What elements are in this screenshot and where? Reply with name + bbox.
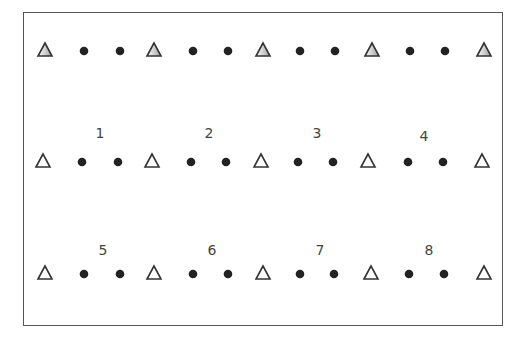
triangle-marker xyxy=(36,154,50,167)
plot-number-label: 1 xyxy=(96,125,105,141)
dot-marker xyxy=(116,47,125,56)
triangle-marker xyxy=(477,43,491,56)
triangle-marker xyxy=(256,266,270,279)
dot-marker xyxy=(189,270,198,279)
dot-marker xyxy=(187,158,196,167)
dot-marker xyxy=(222,158,231,167)
dot-marker xyxy=(441,47,450,56)
plot-number-label: 2 xyxy=(205,125,214,141)
triangle-marker xyxy=(361,154,375,167)
dot-marker xyxy=(80,47,89,56)
triangle-marker xyxy=(477,266,491,279)
dot-marker xyxy=(406,47,415,56)
triangle-marker xyxy=(147,266,161,279)
dot-marker xyxy=(116,270,125,279)
triangle-marker xyxy=(38,266,52,279)
dot-marker xyxy=(439,158,448,167)
marker-layer xyxy=(0,0,526,340)
dot-marker xyxy=(330,270,339,279)
dot-marker xyxy=(189,47,198,56)
dot-marker xyxy=(224,270,233,279)
triangle-marker xyxy=(364,266,378,279)
dot-marker xyxy=(296,47,305,56)
plot-number-label: 5 xyxy=(99,242,108,258)
dot-marker xyxy=(294,158,303,167)
plot-number-label: 4 xyxy=(420,128,429,144)
dot-marker xyxy=(296,270,305,279)
plot-number-label: 3 xyxy=(313,125,322,141)
triangle-marker xyxy=(256,43,270,56)
dot-marker xyxy=(224,47,233,56)
plot-number-label: 6 xyxy=(208,242,217,258)
plot-number-label: 8 xyxy=(425,242,434,258)
plot-number-label: 7 xyxy=(316,242,325,258)
dot-marker xyxy=(404,158,413,167)
dot-marker xyxy=(329,158,338,167)
triangle-marker xyxy=(475,154,489,167)
dot-marker xyxy=(114,158,123,167)
dot-marker xyxy=(440,270,449,279)
triangle-marker xyxy=(365,43,379,56)
triangle-marker xyxy=(147,43,161,56)
dot-marker xyxy=(78,158,87,167)
dot-marker xyxy=(80,270,89,279)
dot-marker xyxy=(405,270,414,279)
triangle-marker xyxy=(254,154,268,167)
triangle-marker xyxy=(38,43,52,56)
dot-marker xyxy=(331,47,340,56)
triangle-marker xyxy=(145,154,159,167)
